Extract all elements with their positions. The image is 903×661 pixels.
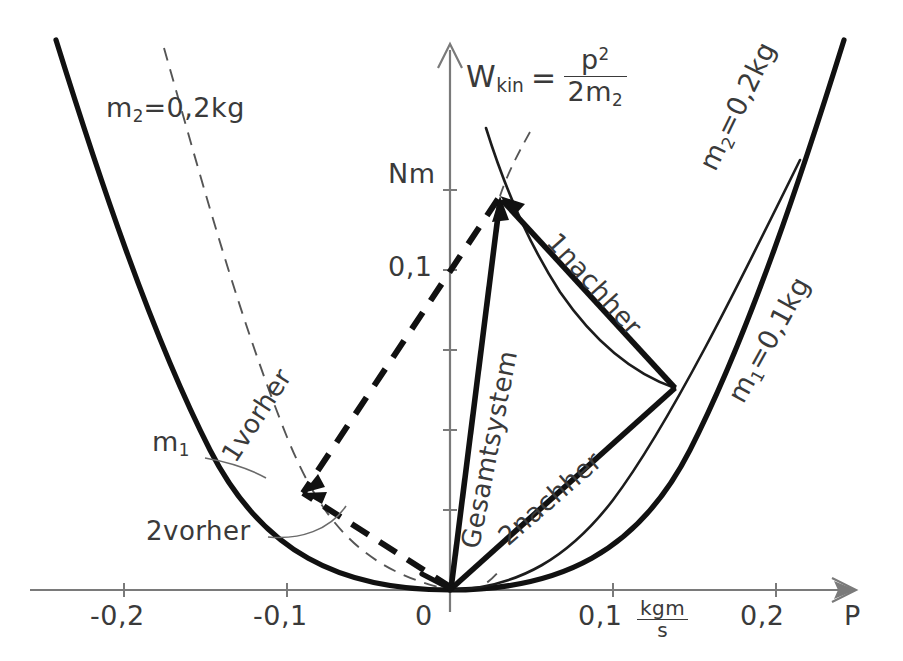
figure-canvas: Wkin = p2 2m2 Nm 0,1 -0,2 -0,1 0 0,1 0,2… (0, 0, 903, 661)
y-axis-title: Wkin = p2 2m2 (466, 46, 627, 109)
x-axis-unit-numerator: kgm (637, 598, 688, 620)
x-axis-unit-denominator: s (637, 620, 688, 641)
y-axis-title-eq: = (531, 60, 557, 95)
curve-apex-dashed-tail (500, 132, 530, 196)
x-axis-symbol: P (844, 600, 861, 631)
x-tick-label--0-2: -0,2 (90, 600, 145, 631)
curve-label-m2-left: m2=0,2kg (106, 92, 245, 126)
x-tick-label-0: 0 (415, 600, 433, 631)
x-tick-label-0-1: 0,1 (578, 600, 622, 631)
fraction-denominator: 2m2 (564, 77, 627, 109)
y-axis-title-lhs: Wkin (466, 59, 524, 96)
vector-label-2vorher: 2vorher (146, 516, 251, 546)
x-tick-label-0-2: 0,2 (740, 600, 784, 631)
y-axis-unit-label: Nm (388, 158, 436, 189)
x-tick-label--0-1: -0,1 (253, 600, 308, 631)
x-axis-unit: kgm s (637, 598, 688, 641)
vector-1vorher (303, 493, 452, 588)
fraction-numerator: p2 (564, 46, 627, 77)
y-tick-label-0-1: 0,1 (388, 251, 432, 282)
curve-label-m1-left: m1 (152, 426, 189, 460)
y-axis-title-fraction: p2 2m2 (564, 46, 627, 109)
